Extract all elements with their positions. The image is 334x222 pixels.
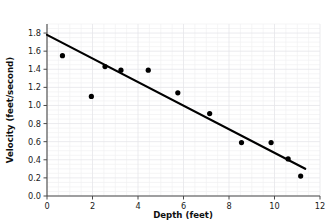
x-tick-label: 12 [315, 201, 325, 211]
x-tick-label: 0 [44, 201, 49, 211]
x-tick-label: 4 [135, 201, 140, 211]
data-point [102, 64, 107, 69]
y-axis-title: Velocity (feet/second) [5, 57, 15, 163]
y-tick-label: 0.4 [28, 155, 41, 165]
x-axis-title: Depth (feet) [153, 210, 213, 220]
data-point [118, 68, 123, 73]
scatter-plot-figure: 024681012 0.00.20.40.60.81.01.21.41.61.8… [0, 0, 334, 222]
y-tick-label: 1.6 [28, 46, 41, 56]
data-point [286, 156, 291, 161]
y-tick-label: 1.8 [28, 28, 41, 38]
data-point [268, 140, 273, 145]
y-tick-label: 1.0 [28, 100, 41, 110]
data-point [207, 111, 212, 116]
plot-canvas: 024681012 0.00.20.40.60.81.01.21.41.61.8… [0, 0, 334, 222]
y-tick-label: 0.0 [28, 191, 41, 201]
y-tick-label: 0.2 [28, 173, 41, 183]
y-tick-label: 1.2 [28, 82, 41, 92]
data-point [175, 90, 180, 95]
data-point [298, 173, 303, 178]
y-tick-label: 1.4 [28, 64, 41, 74]
y-tick-label: 0.6 [28, 137, 41, 147]
data-point [239, 140, 244, 145]
x-tick-label: 10 [269, 201, 279, 211]
x-tick-label: 8 [226, 201, 231, 211]
data-point [60, 53, 65, 58]
y-tick-label: 0.8 [28, 119, 41, 129]
data-point [89, 94, 94, 99]
data-point [146, 68, 151, 73]
x-tick-label: 2 [90, 201, 95, 211]
